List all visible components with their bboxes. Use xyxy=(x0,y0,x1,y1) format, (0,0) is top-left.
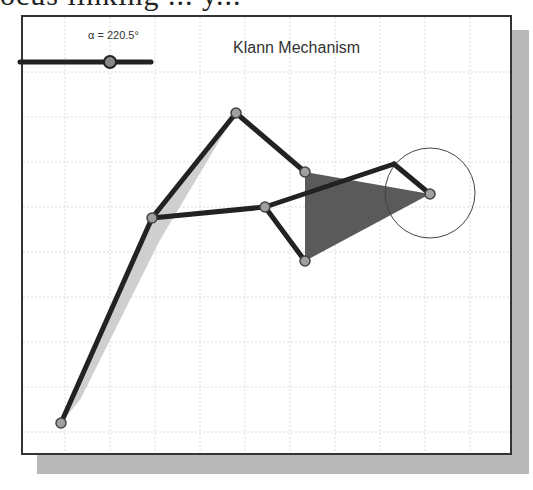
mechanism-diagram xyxy=(0,0,533,490)
figure-title: Klann Mechanism xyxy=(233,39,360,57)
angle-slider-label: α = 220.5° xyxy=(88,29,139,41)
joint-knee xyxy=(147,213,157,223)
leg-trace xyxy=(61,113,236,423)
joint-mid xyxy=(260,202,270,212)
joint-hip-top xyxy=(231,108,241,118)
grid xyxy=(23,17,510,453)
joint-foot xyxy=(56,418,66,428)
joint-tri-bottom xyxy=(300,256,310,266)
links xyxy=(61,113,430,423)
joint-crank xyxy=(425,189,435,199)
joint-tri-top xyxy=(300,167,310,177)
joints xyxy=(56,108,435,428)
slider-handle xyxy=(104,56,116,68)
